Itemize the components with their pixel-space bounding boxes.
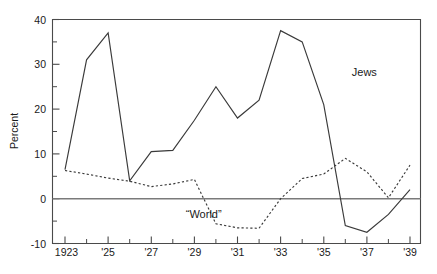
y-tick-label: 40 xyxy=(34,14,46,26)
jews-series-line xyxy=(65,31,410,233)
plot-frame xyxy=(53,20,421,244)
x-tick-label: '33 xyxy=(274,246,288,258)
x-tick-label: '35 xyxy=(317,246,331,258)
y-tick-label: 0 xyxy=(40,193,46,205)
x-tick-label: '39 xyxy=(403,246,417,258)
world-series-label: “World” xyxy=(186,208,222,220)
y-tick-label: 10 xyxy=(34,148,46,160)
x-tick-label: '31 xyxy=(231,246,245,258)
y-axis-tick-labels: 40 30 20 10 0 -10 xyxy=(31,14,46,250)
x-tick-label: '37 xyxy=(360,246,374,258)
x-tick-label: '27 xyxy=(144,246,158,258)
line-chart-svg: 40 30 20 10 0 -10 Percent xyxy=(0,0,437,274)
jews-series-label: Jews xyxy=(352,66,378,78)
y-axis-title: Percent xyxy=(8,113,20,149)
x-axis-tick-labels: 1923 '25 '27 '29 '31 '33 '35 '37 '39 xyxy=(55,246,417,258)
y-axis-title-group: Percent xyxy=(8,113,20,149)
x-tick-label: 1923 xyxy=(55,246,79,258)
y-tick-label: -10 xyxy=(31,238,46,250)
x-tick-label: '25 xyxy=(101,246,115,258)
world-series-line xyxy=(65,158,410,228)
y-tick-label: 20 xyxy=(34,103,46,115)
y-axis-minor-ticks xyxy=(53,42,58,221)
x-tick-label: '29 xyxy=(188,246,202,258)
y-tick-label: 30 xyxy=(34,58,46,70)
chart-figure: 40 30 20 10 0 -10 Percent xyxy=(0,0,437,274)
x-axis-major-ticks xyxy=(65,237,410,244)
